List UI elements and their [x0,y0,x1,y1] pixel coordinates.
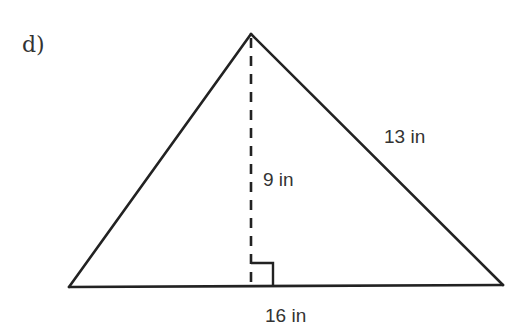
height-label: 9 in [263,169,294,190]
triangle-base [69,285,503,287]
side-label: 13 in [384,126,425,147]
base-label: 16 in [265,305,306,326]
triangle-left-side [69,34,251,287]
triangle-right-side [251,34,503,285]
right-angle-marker [251,263,273,285]
problem-label: d) [22,32,45,57]
triangle-diagram: d) 9 in 13 in 16 in [0,0,532,336]
